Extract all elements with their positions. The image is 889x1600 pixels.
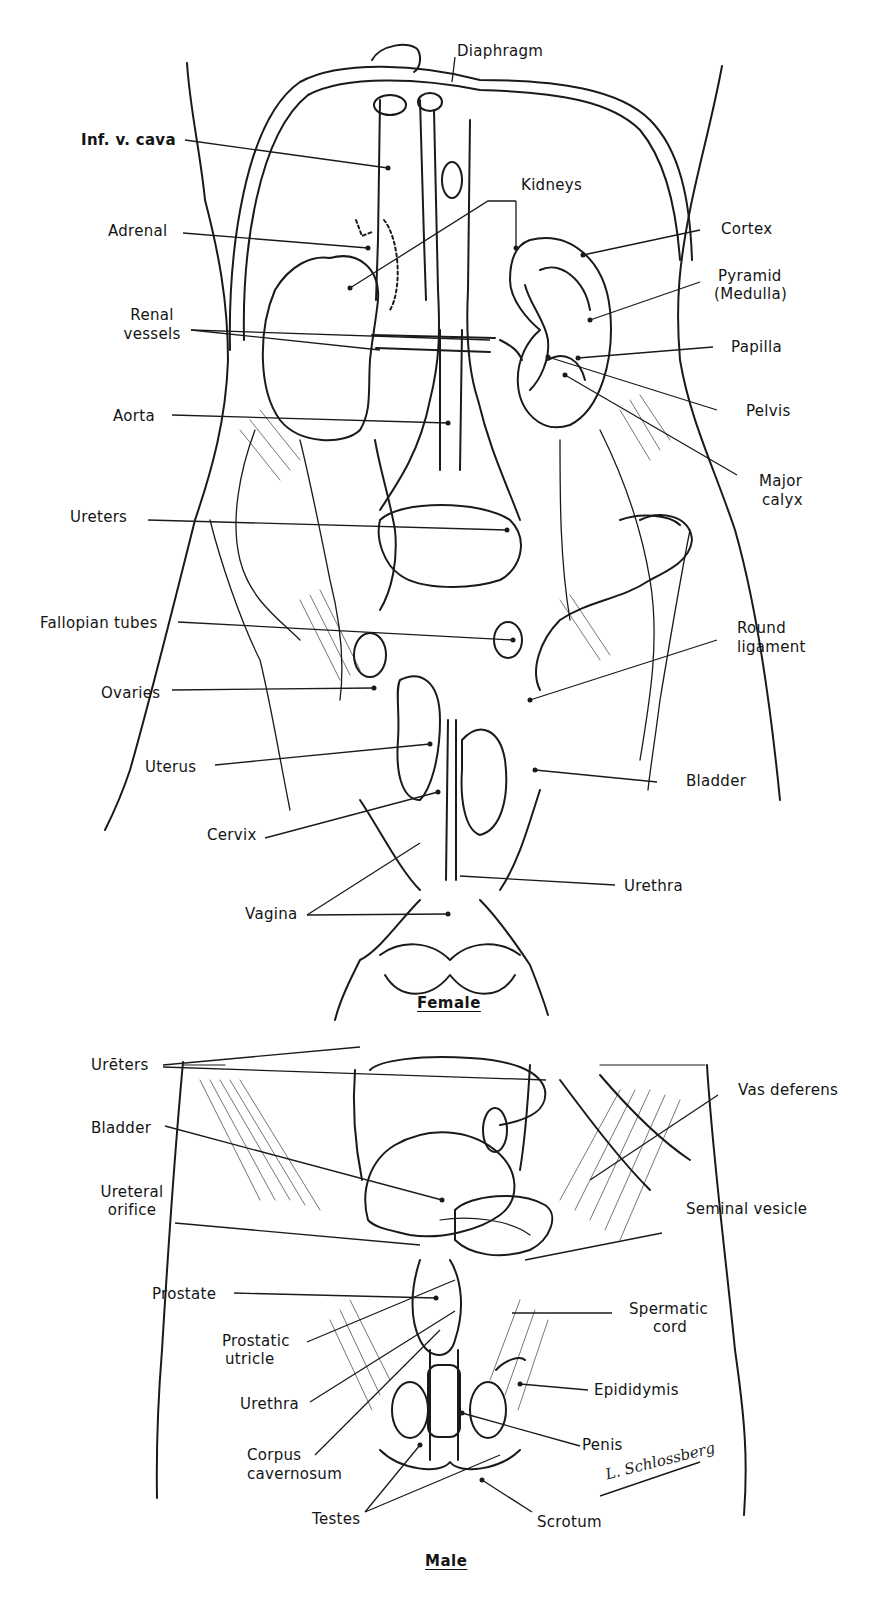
female-pelvic-organs (335, 505, 692, 1020)
label-ovaries: Ovaries (101, 684, 160, 703)
label-urethra-male: Urethra (240, 1395, 299, 1414)
label-ureters-male: Urēters (91, 1056, 149, 1075)
label-uterus: Uterus (145, 758, 196, 777)
label-urethra-female: Urethra (624, 877, 683, 896)
label-bladder-female: Bladder (686, 772, 746, 791)
label-ureteral: Ureteral (93, 1183, 171, 1202)
muscles (210, 430, 690, 810)
label-corpus: Corpus (247, 1446, 301, 1465)
label-vagina: Vagina (245, 905, 297, 924)
diaphragm-shape (230, 45, 692, 350)
label-pyramid: Pyramid (718, 267, 782, 286)
label-medulla: (Medulla) (714, 285, 787, 304)
label-spermatic: Spermatic (629, 1300, 708, 1319)
label-diaphragm: Diaphragm (457, 42, 543, 61)
caption-male: Male (425, 1552, 467, 1570)
label-vessels: vessels (118, 325, 186, 344)
label-cavernosum: cavernosum (247, 1465, 342, 1484)
label-prostatic: Prostatic (222, 1332, 290, 1351)
label-papilla: Papilla (731, 338, 782, 357)
label-aorta: Aorta (113, 407, 155, 426)
urogenital-anatomy-figure: Diaphragm Inf. v. cava Kidneys Adrenal C… (0, 0, 889, 1600)
label-ureters-female: Ureters (70, 508, 127, 527)
label-calyx: calyx (762, 491, 803, 510)
label-penis: Penis (582, 1436, 623, 1455)
label-adrenal: Adrenal (108, 222, 168, 241)
label-ligament: ligament (737, 638, 806, 657)
label-scrotum: Scrotum (537, 1513, 602, 1532)
label-cord: cord (653, 1318, 687, 1337)
label-cervix: Cervix (207, 826, 257, 845)
label-fallopian-tubes: Fallopian tubes (40, 614, 158, 633)
label-round: Round (737, 619, 786, 638)
label-kidneys: Kidneys (521, 176, 582, 195)
right-kidney-section (500, 238, 611, 427)
label-epididymis: Epididymis (594, 1381, 679, 1400)
label-utricle: utricle (225, 1350, 274, 1369)
label-seminal-vesicle: Seminal vesicle (686, 1200, 807, 1219)
label-bladder-male: Bladder (91, 1119, 151, 1138)
label-renal: Renal (118, 306, 186, 325)
male-pelvic-organs (354, 1057, 690, 1469)
label-inf-v-cava: Inf. v. cava (81, 131, 176, 150)
ivc-aorta (374, 93, 520, 610)
label-major: Major (759, 472, 802, 491)
label-testes: Testes (312, 1510, 360, 1529)
label-prostate: Prostate (152, 1285, 216, 1304)
label-vas-deferens: Vas deferens (738, 1081, 838, 1100)
label-orifice: orifice (93, 1201, 171, 1220)
caption-female: Female (417, 994, 481, 1012)
male-body-outline (157, 1062, 746, 1515)
label-pelvis: Pelvis (746, 402, 791, 421)
hatching (200, 395, 680, 1410)
label-cortex: Cortex (721, 220, 772, 239)
